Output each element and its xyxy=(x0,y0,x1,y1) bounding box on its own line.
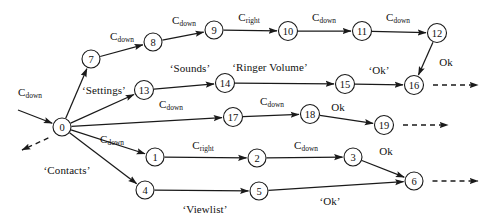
edge-label-subscript: down xyxy=(167,103,183,112)
node-4[interactable]: 4 xyxy=(136,181,154,199)
edge-label-subscript: down xyxy=(320,16,336,25)
node-label-17: 17 xyxy=(228,112,239,123)
node-11[interactable]: 11 xyxy=(353,22,372,41)
edge-label-lbl-14-15: ‘Ringer Volume’ xyxy=(232,62,307,73)
state-transition-diagram: 078910111213141516171819123456 CdownCdow… xyxy=(0,0,494,220)
node-label-16: 16 xyxy=(409,80,420,91)
node-2[interactable]: 2 xyxy=(248,149,266,167)
node-16[interactable]: 16 xyxy=(405,76,424,95)
node-label-12: 12 xyxy=(432,28,443,39)
edge-15-to-16 xyxy=(355,84,403,85)
edge-label-lbl-0-7: Cdown xyxy=(18,87,42,98)
edge-label-lbl-9-10: Cright xyxy=(238,12,259,23)
edge-1-to-2 xyxy=(164,157,246,158)
graph-canvas: 078910111213141516171819123456 xyxy=(0,0,494,220)
node-15[interactable]: 15 xyxy=(336,75,355,94)
edge-4-to-5 xyxy=(154,190,248,191)
edge-8-to-9 xyxy=(162,32,203,40)
edge-label-lbl-12-16: Ok xyxy=(439,57,453,68)
edge-9-to-10 xyxy=(223,30,277,31)
edge-label-lbl-0-17: Cdown xyxy=(159,99,183,110)
edge-0-to-13 xyxy=(71,95,134,124)
edge-13-to-14 xyxy=(154,84,214,89)
edge-label-subscript: right xyxy=(246,16,260,25)
edge-label-lbl-13-14: ‘Sounds’ xyxy=(170,63,211,74)
node-label-1: 1 xyxy=(152,152,157,163)
edge-3-to-6 xyxy=(362,160,404,177)
node-label-4: 4 xyxy=(142,185,148,196)
node-3[interactable]: 3 xyxy=(344,148,362,166)
node-10[interactable]: 10 xyxy=(279,22,298,41)
node-label-19: 19 xyxy=(379,120,390,131)
node-0[interactable]: 0 xyxy=(53,118,71,136)
node-label-15: 15 xyxy=(340,79,351,90)
edge-label-subscript: down xyxy=(394,16,410,25)
edge-0-to-exit-left xyxy=(22,138,48,150)
edge-label-lbl-11-12: Cdown xyxy=(386,12,410,23)
edge-label-lbl-18-19: Ok xyxy=(331,102,345,113)
edge-label-subscript: down xyxy=(118,35,134,44)
edge-label-lbl-17-18: Cdown xyxy=(260,96,284,107)
node-19[interactable]: 19 xyxy=(375,116,394,135)
node-label-13: 13 xyxy=(139,85,150,96)
node-6[interactable]: 6 xyxy=(405,172,423,190)
edge-17-to-18 xyxy=(243,114,299,116)
node-label-2: 2 xyxy=(254,153,259,164)
edge-label-subscript: down xyxy=(180,19,196,28)
edge-label-lbl-10-11: Cdown xyxy=(312,12,336,23)
edge-label-subscript: down xyxy=(108,138,124,147)
nodes-layer: 078910111213141516171819123456 xyxy=(53,21,447,200)
node-label-9: 9 xyxy=(211,25,216,36)
edge-label-lbl-3-6: Ok xyxy=(379,146,393,157)
edge-label-subscript: down xyxy=(302,144,318,153)
edge-entry-to-0 xyxy=(18,110,52,123)
node-label-14: 14 xyxy=(220,78,231,89)
node-label-3: 3 xyxy=(350,152,355,163)
node-label-5: 5 xyxy=(256,186,261,197)
edge-label-lbl-1-2: Cright xyxy=(192,140,213,151)
node-18[interactable]: 18 xyxy=(301,105,320,124)
node-12[interactable]: 12 xyxy=(428,24,447,43)
node-label-7: 7 xyxy=(88,54,93,65)
edge-label-lbl-5-6: ‘Ok’ xyxy=(319,196,340,207)
node-9[interactable]: 9 xyxy=(205,21,223,39)
node-label-11: 11 xyxy=(357,26,367,37)
edge-label-lbl-8-9: Cdown xyxy=(172,15,196,26)
edge-0-to-17 xyxy=(71,118,222,127)
edge-14-to-15 xyxy=(235,83,334,84)
edge-label-lbl-0-13: ‘Settings’ xyxy=(82,85,126,96)
edge-18-to-19 xyxy=(320,115,373,123)
edge-label-lbl-0-1: Cdown xyxy=(100,134,124,145)
edge-label-subscript: down xyxy=(268,100,284,109)
node-14[interactable]: 14 xyxy=(216,74,235,93)
edge-label-subscript: right xyxy=(200,144,214,153)
node-5[interactable]: 5 xyxy=(250,182,268,200)
edge-5-to-6 xyxy=(268,182,403,191)
node-label-0: 0 xyxy=(59,122,64,133)
edge-label-lbl-4-5: ‘Viewlist’ xyxy=(183,204,228,215)
edge-2-to-3 xyxy=(266,157,342,158)
edge-label-lbl-2-3: Cdown xyxy=(294,140,318,151)
node-8[interactable]: 8 xyxy=(144,33,162,51)
node-label-18: 18 xyxy=(305,109,316,120)
edge-7-to-8 xyxy=(100,45,143,57)
node-13[interactable]: 13 xyxy=(135,81,154,100)
edge-12-to-16 xyxy=(418,42,433,75)
edge-label-subscript: down xyxy=(26,91,42,100)
edge-label-lbl-0-4: ‘Contacts’ xyxy=(44,165,91,176)
node-label-10: 10 xyxy=(283,26,294,37)
node-17[interactable]: 17 xyxy=(224,108,243,127)
node-1[interactable]: 1 xyxy=(146,148,164,166)
node-label-8: 8 xyxy=(150,37,155,48)
node-7[interactable]: 7 xyxy=(82,50,100,68)
edge-label-lbl-7-8: Cdown xyxy=(110,31,134,42)
node-label-6: 6 xyxy=(411,176,416,187)
edge-label-lbl-15-16: ‘Ok’ xyxy=(368,65,389,76)
edge-11-to-12 xyxy=(372,31,426,32)
